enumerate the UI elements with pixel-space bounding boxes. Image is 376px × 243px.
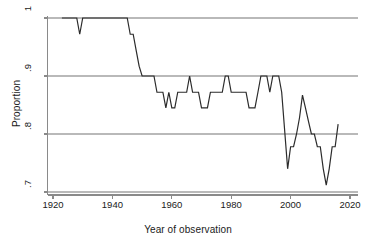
axis-lines	[48, 16, 359, 195]
gridlines	[48, 18, 359, 192]
data-series	[62, 18, 338, 185]
y-tick-label: .7	[22, 180, 34, 204]
line-chart: 192019401960198020002020 .7.8.91 Year of…	[0, 0, 376, 243]
tick-marks	[44, 18, 351, 199]
y-tick-label: 1	[22, 6, 34, 30]
x-axis-title: Year of observation	[0, 224, 376, 235]
x-tick-label: 1940	[92, 199, 132, 210]
x-tick-label: 1980	[211, 199, 251, 210]
x-tick-label: 2000	[271, 199, 311, 210]
y-tick-label: .8	[22, 122, 34, 146]
x-tick-label: 1920	[33, 199, 73, 210]
x-tick-label: 1960	[152, 199, 192, 210]
y-tick-label: .9	[22, 64, 34, 88]
x-tick-label: 2020	[330, 199, 370, 210]
y-axis-title: Proportion	[11, 44, 22, 164]
